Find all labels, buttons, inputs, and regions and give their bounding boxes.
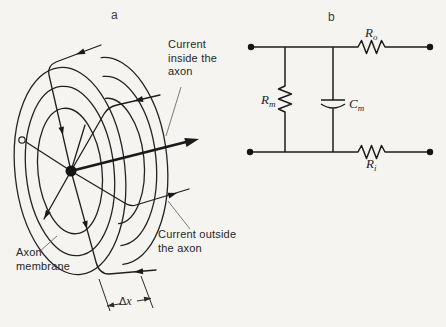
Ro-sub: o — [373, 32, 378, 42]
membrane-node-circle — [19, 137, 25, 143]
leader-current-outside — [168, 201, 190, 229]
dimension-extension-right — [141, 276, 153, 308]
axon-membrane-label: Axon membrane — [16, 246, 86, 273]
capacitor-Cm-label: Cm — [349, 96, 364, 113]
Ri-base: R — [366, 156, 374, 171]
resistor-Ri-label: Ri — [366, 156, 376, 173]
panel-a-caption: a — [111, 8, 118, 22]
Cm-base: C — [349, 96, 358, 111]
terminal-bottom-right — [427, 149, 433, 155]
spoke-up — [71, 125, 85, 171]
inside-wire-with-Ri — [250, 146, 430, 159]
delta-x-variable: x — [126, 294, 131, 308]
terminal-top-left — [248, 44, 254, 50]
current-inside-label: Current inside the axon — [168, 38, 232, 79]
membrane-resistor-branch — [279, 47, 292, 152]
leader-current-inside — [166, 87, 181, 136]
resistor-Ro-label: Ro — [365, 25, 377, 42]
arrowhead-right — [168, 193, 178, 199]
current-outside-label: Current outside the axon — [158, 228, 250, 255]
arrowhead-radial-out — [82, 221, 87, 230]
current-line-right — [71, 171, 189, 206]
Ro-base: R — [365, 25, 373, 40]
capacitor-plate-bottom — [321, 104, 345, 108]
Cm-sub: m — [358, 103, 365, 113]
terminal-top-right — [427, 44, 433, 50]
figure-axon-cable-model: a b Current inside the axon Current outs… — [0, 0, 446, 327]
arrowhead-top-left — [76, 49, 86, 55]
Rm-base: R — [261, 92, 269, 107]
Rm-sub: m — [269, 99, 276, 109]
current-inside-arrow — [71, 138, 199, 171]
terminal-bottom-left — [247, 149, 253, 155]
spoke-to-left-node — [26, 142, 71, 171]
resistor-Rm-label: Rm — [261, 92, 275, 109]
axon-center-node — [66, 166, 77, 177]
delta-x-label: Δx — [119, 294, 132, 309]
equivalent-circuit — [250, 41, 430, 159]
Ri-sub: i — [374, 163, 377, 173]
arrowhead-radial-in — [59, 127, 64, 135]
panel-b-caption: b — [328, 10, 335, 24]
current-line-top-left — [49, 45, 101, 171]
outside-wire-with-Ro — [251, 41, 430, 54]
